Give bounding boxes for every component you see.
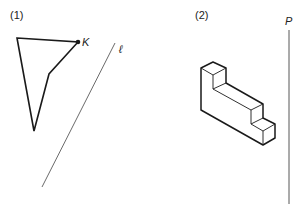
line-l <box>42 43 115 187</box>
figure-2-label: (2) <box>195 9 208 21</box>
quadrilateral-shape <box>17 38 78 131</box>
point-k-dot <box>76 40 81 45</box>
line-l-label: ℓ <box>118 43 123 55</box>
figure-1-label: (1) <box>10 9 23 21</box>
diagram-canvas: (1) K ℓ (2) P <box>0 0 304 211</box>
isometric-solid <box>201 62 275 145</box>
plane-p-label: P <box>285 15 293 27</box>
point-k-label: K <box>82 36 90 48</box>
diagram-svg: (1) K ℓ (2) P <box>0 0 304 211</box>
